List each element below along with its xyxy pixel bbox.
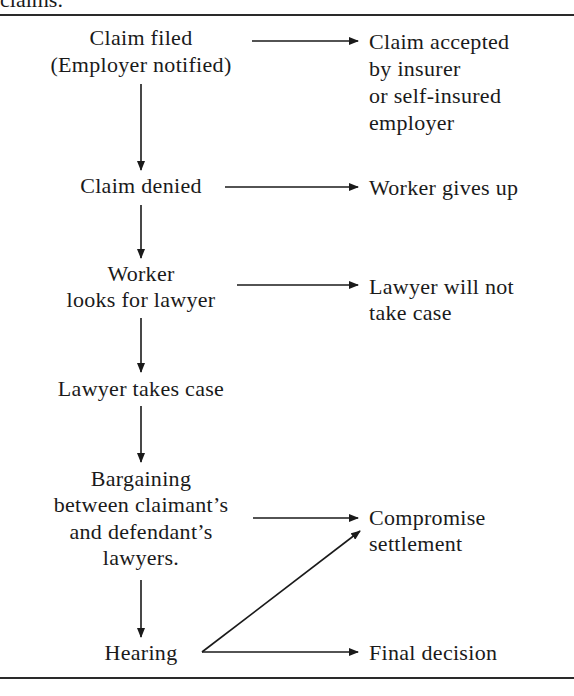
arrow-diagonal-icon bbox=[202, 531, 360, 652]
flow-arrows bbox=[0, 0, 574, 696]
bottom-rule bbox=[0, 677, 574, 679]
